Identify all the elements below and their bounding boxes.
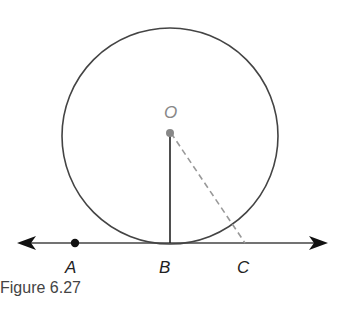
point-A — [71, 239, 79, 247]
label-A: A — [64, 258, 76, 277]
label-O: O — [164, 103, 177, 122]
center-point-O — [166, 129, 174, 137]
segment-OC — [171, 133, 245, 243]
label-C: C — [237, 258, 250, 277]
tangent-line-diagram: O A B C — [0, 0, 345, 310]
label-B: B — [159, 258, 170, 277]
figure-caption: Figure 6.27 — [0, 279, 81, 297]
